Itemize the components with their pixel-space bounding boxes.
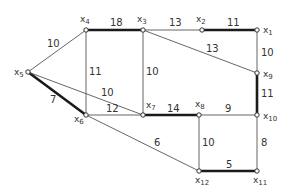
node-label-x10: x10 xyxy=(263,111,277,123)
node-label-x8: x8 xyxy=(195,99,205,111)
edge-x6-x12 xyxy=(86,115,199,171)
edge-weight-label: 10 xyxy=(101,87,114,98)
edge-layer xyxy=(28,30,257,171)
node-layer xyxy=(26,28,259,173)
edge-weight-label: 9 xyxy=(225,103,231,114)
node-label-x7: x7 xyxy=(146,100,156,112)
edge-x5-x4 xyxy=(28,30,86,72)
edge-weight-label: 11 xyxy=(227,17,240,28)
node-label-x3: x3 xyxy=(137,14,147,26)
edge-weight-label: 10 xyxy=(146,66,159,77)
node-x4 xyxy=(84,28,88,32)
node-label-x1: x1 xyxy=(263,25,273,37)
node-x5 xyxy=(26,70,30,74)
node-x9 xyxy=(255,71,259,75)
edge-x5-x6 xyxy=(28,72,86,115)
node-x1 xyxy=(255,28,259,32)
edge-weight-label: 5 xyxy=(226,159,232,170)
edge-weight-label: 12 xyxy=(106,103,119,114)
node-x10 xyxy=(255,113,259,117)
edge-weight-label: 8 xyxy=(261,137,267,148)
edge-weight-label: 7 xyxy=(50,94,56,105)
edge-weight-label: 18 xyxy=(110,17,123,28)
edge-weight-label: 14 xyxy=(167,103,180,114)
node-x6 xyxy=(84,113,88,117)
node-x7 xyxy=(141,113,145,117)
node-x8 xyxy=(197,113,201,117)
node-x3 xyxy=(141,28,145,32)
node-label-x12: x12 xyxy=(195,175,209,187)
edge-weight-label: 11 xyxy=(89,66,102,77)
edge-weight-label: 10 xyxy=(202,137,215,148)
node-label-x9: x9 xyxy=(263,69,273,81)
edge-weight-label: 11 xyxy=(261,88,274,99)
node-label-x4: x4 xyxy=(80,14,90,26)
node-label-x2: x2 xyxy=(196,14,206,26)
edge-weight-label: 13 xyxy=(169,17,182,28)
node-label-x11: x11 xyxy=(253,175,267,187)
edge-weight-label: 13 xyxy=(206,43,219,54)
edge-x3-x9 xyxy=(143,30,257,73)
edge-weight-labels: 1813111013111011107101214961085 xyxy=(47,17,274,170)
node-x12 xyxy=(197,169,201,173)
node-label-x5: x5 xyxy=(14,67,24,79)
graph-diagram: 1813111013111011107101214961085 x1x2x3x4… xyxy=(0,0,290,196)
node-x11 xyxy=(255,169,259,173)
node-label-x6: x6 xyxy=(74,114,84,126)
edge-x5-x7 xyxy=(28,72,143,115)
edge-weight-label: 10 xyxy=(261,47,274,58)
node-x2 xyxy=(200,28,204,32)
edge-weight-label: 6 xyxy=(154,137,160,148)
edge-weight-label: 10 xyxy=(47,38,60,49)
